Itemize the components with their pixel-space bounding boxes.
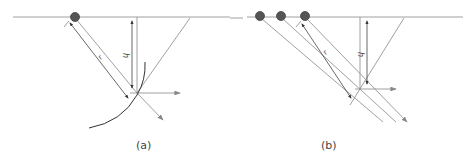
source-icon: [277, 12, 286, 21]
h-label-b: h: [356, 52, 365, 57]
panel-a: [13, 13, 230, 129]
source-icon: [71, 13, 80, 22]
source-icon: [256, 12, 265, 21]
source-icon: [301, 12, 310, 21]
caption-a: (a): [136, 139, 151, 152]
direction-arrow: [137, 93, 163, 120]
diagram: h r h r: [0, 0, 463, 167]
h-label-a: h: [121, 53, 130, 58]
caption-b: (b): [321, 139, 337, 152]
panel-b: [230, 12, 463, 123]
r-dimension: [70, 23, 128, 98]
cone-edge: [350, 18, 404, 105]
r-dimension: [302, 24, 351, 98]
ray-2: [283, 19, 396, 122]
cone-edge: [137, 18, 190, 93]
r-label-a: r: [96, 53, 105, 61]
